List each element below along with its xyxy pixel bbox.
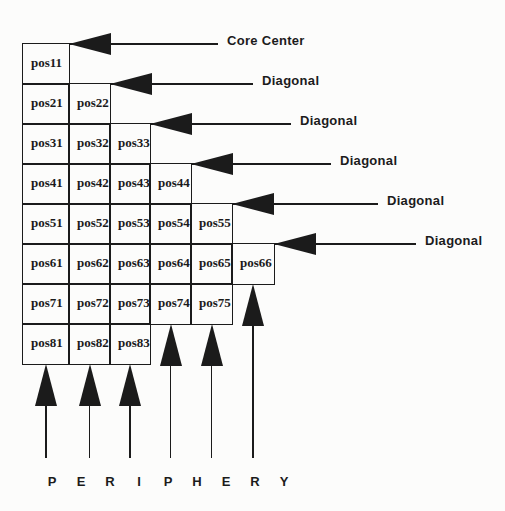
grid-cell-pos42: pos42	[69, 164, 110, 204]
grid-cell-label: pos66	[240, 256, 272, 269]
grid-cell-label: pos53	[118, 216, 150, 229]
grid-cell-label: pos11	[31, 56, 62, 69]
periphery-arrowhead-up-icon	[35, 364, 57, 406]
grid-cell-label: pos31	[31, 136, 63, 149]
periphery-letter-p-0: P	[42, 475, 62, 489]
grid-cell-label: pos32	[77, 136, 109, 149]
periphery-letter-e-6: E	[216, 475, 236, 489]
position-matrix-figure: pos11pos21pos22pos31pos32pos33pos41pos42…	[0, 0, 505, 511]
grid-cell-pos71: pos71	[23, 284, 69, 324]
callout-label-diagonal: Diagonal	[340, 154, 397, 168]
grid-cell-label: pos22	[77, 96, 109, 109]
grid-cell-label: pos71	[31, 296, 63, 309]
callout-label-diagonal: Diagonal	[262, 74, 319, 88]
periphery-letter-e-1: E	[71, 475, 91, 489]
grid-cell-pos31: pos31	[23, 124, 69, 164]
grid-cell-pos61: pos61	[23, 244, 69, 284]
callout-arrowhead-left-icon	[69, 33, 111, 55]
periphery-arrow-shaft	[252, 326, 254, 458]
grid-cell-label: pos42	[77, 176, 109, 189]
periphery-arrow-shaft	[129, 406, 131, 458]
grid-cell-label: pos72	[77, 296, 109, 309]
periphery-letter-p-4: P	[158, 475, 178, 489]
grid-cell-pos62: pos62	[69, 244, 110, 284]
grid-cell-pos54: pos54	[150, 204, 191, 244]
grid-cell-label: pos33	[118, 136, 150, 149]
periphery-letter-r-7: R	[245, 475, 265, 489]
grid-cell-pos52: pos52	[69, 204, 110, 244]
periphery-letter-i-3: I	[129, 475, 149, 489]
grid-cell-pos73: pos73	[110, 284, 150, 324]
grid-cell-label: pos61	[31, 256, 63, 269]
grid-cell-label: pos81	[31, 336, 63, 349]
grid-cell-pos33: pos33	[110, 124, 150, 164]
periphery-letter-h-5: H	[187, 475, 207, 489]
periphery-arrow-shaft	[170, 366, 172, 458]
grid-cell-pos43: pos43	[110, 164, 150, 204]
grid-cell-pos74: pos74	[150, 284, 191, 324]
periphery-arrowhead-up-icon	[242, 284, 264, 326]
periphery-arrowhead-up-icon	[79, 364, 101, 406]
grid-cell-label: pos62	[77, 256, 109, 269]
callout-label-diagonal: Diagonal	[300, 114, 357, 128]
periphery-arrowhead-up-icon	[119, 364, 141, 406]
callout-label-core-center: Core Center	[227, 34, 305, 48]
grid-cell-pos75: pos75	[191, 284, 232, 324]
grid-cell-label: pos63	[118, 256, 150, 269]
periphery-arrow-shaft	[211, 366, 213, 458]
grid-cell-label: pos52	[77, 216, 109, 229]
grid-cell-label: pos64	[158, 256, 190, 269]
grid-cell-pos44: pos44	[150, 164, 191, 204]
grid-cell-label: pos41	[31, 176, 63, 189]
grid-cell-label: pos44	[158, 176, 190, 189]
grid-cell-pos55: pos55	[191, 204, 232, 244]
callout-arrowhead-left-icon	[274, 233, 316, 255]
grid-cell-pos72: pos72	[69, 284, 110, 324]
grid-cell-pos83: pos83	[110, 324, 150, 364]
grid-cell-label: pos74	[158, 296, 190, 309]
periphery-arrowhead-up-icon	[201, 324, 223, 366]
grid-cell-pos64: pos64	[150, 244, 191, 284]
callout-arrowhead-left-icon	[191, 153, 233, 175]
callout-arrowhead-left-icon	[110, 73, 152, 95]
grid-cell-label: pos43	[118, 176, 150, 189]
grid-cell-label: pos51	[31, 216, 63, 229]
grid-cell-pos51: pos51	[23, 204, 69, 244]
grid-cell-pos32: pos32	[69, 124, 110, 164]
periphery-arrow-shaft	[45, 406, 47, 458]
grid-cell-label: pos82	[77, 336, 109, 349]
grid-cell-pos21: pos21	[23, 84, 69, 124]
callout-arrowhead-left-icon	[150, 113, 192, 135]
periphery-arrowhead-up-icon	[160, 324, 182, 366]
grid-cell-pos65: pos65	[191, 244, 232, 284]
callout-label-diagonal: Diagonal	[425, 234, 482, 248]
periphery-letter-r-2: R	[100, 475, 120, 489]
grid-cell-label: pos83	[118, 336, 150, 349]
grid-cell-label: pos65	[199, 256, 231, 269]
grid-cell-pos22: pos22	[69, 84, 110, 124]
periphery-letter-y-8: Y	[274, 475, 294, 489]
grid-cell-pos81: pos81	[23, 324, 69, 364]
grid-cell-label: pos75	[199, 296, 231, 309]
grid-cell-pos82: pos82	[69, 324, 110, 364]
grid-cell-pos11: pos11	[23, 44, 69, 84]
grid-cell-label: pos73	[118, 296, 150, 309]
callout-arrowhead-left-icon	[232, 193, 274, 215]
callout-label-diagonal: Diagonal	[387, 194, 444, 208]
grid-cell-pos66: pos66	[232, 244, 274, 284]
periphery-arrow-shaft	[89, 406, 91, 458]
grid-cell-pos53: pos53	[110, 204, 150, 244]
grid-cell-pos41: pos41	[23, 164, 69, 204]
grid-cell-label: pos21	[31, 96, 63, 109]
grid-cell-label: pos54	[158, 216, 190, 229]
grid-cell-pos63: pos63	[110, 244, 150, 284]
grid-cell-label: pos55	[199, 216, 231, 229]
